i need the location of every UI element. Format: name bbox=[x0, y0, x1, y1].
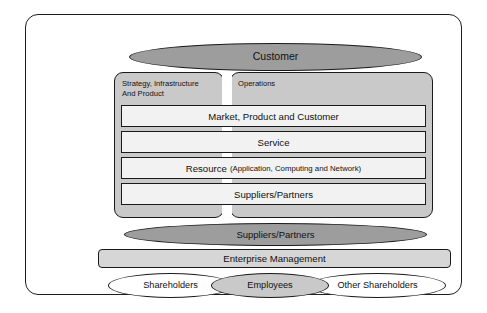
layer-service: Service bbox=[121, 131, 426, 153]
layer-resource-sublabel: (Application, Computing and Network) bbox=[230, 164, 361, 173]
layer-suppliers-partners: Suppliers/Partners bbox=[121, 183, 426, 205]
panel-gap-notch-top bbox=[222, 72, 232, 106]
enterprise-management-label: Enterprise Management bbox=[223, 253, 325, 264]
panel-strategy-label: Strategy, Infrastructure And Product bbox=[122, 79, 219, 99]
stakeholder-other-shareholders-label: Other Shareholders bbox=[337, 281, 417, 291]
customer-ellipse: Customer bbox=[129, 43, 422, 71]
stakeholder-shareholders-label: Shareholders bbox=[143, 281, 198, 291]
diagram-canvas: Customer Strategy, Infrastructure And Pr… bbox=[0, 0, 487, 313]
stakeholder-other-shareholders-ellipse: Other Shareholders bbox=[309, 273, 446, 298]
layer-market-label: Market, Product and Customer bbox=[208, 111, 339, 122]
layer-resource-label: Resource bbox=[186, 163, 227, 174]
outer-frame: Customer Strategy, Infrastructure And Pr… bbox=[25, 14, 462, 295]
stakeholder-employees-ellipse: Employees bbox=[211, 273, 329, 298]
enterprise-management-bar: Enterprise Management bbox=[98, 249, 451, 268]
stakeholder-employees-label: Employees bbox=[247, 281, 292, 291]
panel-gap-notch-bottom bbox=[222, 204, 232, 219]
layer-service-label: Service bbox=[258, 137, 290, 148]
customer-label: Customer bbox=[253, 51, 299, 62]
suppliers-partners-ellipse: Suppliers/Partners bbox=[124, 223, 427, 246]
suppliers-partners-ellipse-label: Suppliers/Partners bbox=[236, 230, 314, 240]
layer-resource: Resource(Application, Computing and Netw… bbox=[121, 157, 426, 179]
layer-market-product-customer: Market, Product and Customer bbox=[121, 105, 426, 127]
panel-operations-label: Operations bbox=[238, 79, 428, 89]
layer-suppliers-label: Suppliers/Partners bbox=[234, 189, 313, 200]
